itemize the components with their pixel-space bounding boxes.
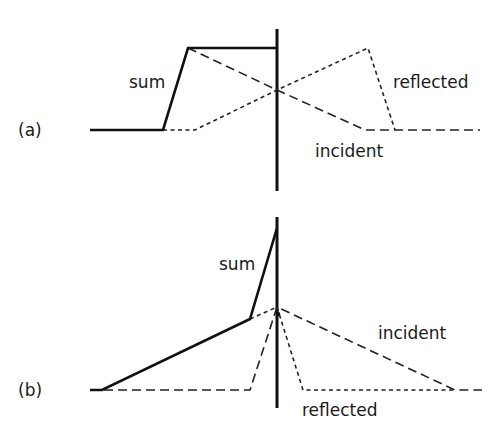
wave-reflection-diagram: (a) sum reflected incident (b) sum incid… — [0, 0, 502, 440]
panel-a-incident-label: incident — [315, 141, 384, 161]
panel-b-incident-label: incident — [378, 323, 447, 343]
panel-b-label: (b) — [18, 380, 42, 400]
panel-a-sum-label: sum — [129, 72, 165, 92]
panel-b-sum-label: sum — [219, 254, 255, 274]
panel-b-junction-dot — [276, 312, 280, 316]
panel-a-label: (a) — [18, 120, 42, 140]
panel-a-reflected-label: reflected — [393, 72, 469, 92]
panel-b-incident-curve — [90, 307, 482, 390]
panel-a-sum-curve — [90, 48, 277, 130]
panel-b-sum-curve — [90, 228, 277, 390]
panel-b-reflected-curve — [250, 307, 455, 390]
panel-b: (b) sum incident reflected — [18, 217, 482, 420]
panel-b-reflected-label: reflected — [302, 400, 378, 420]
panel-a: (a) sum reflected incident — [18, 29, 480, 191]
panel-a-reflected-curve — [163, 48, 395, 130]
